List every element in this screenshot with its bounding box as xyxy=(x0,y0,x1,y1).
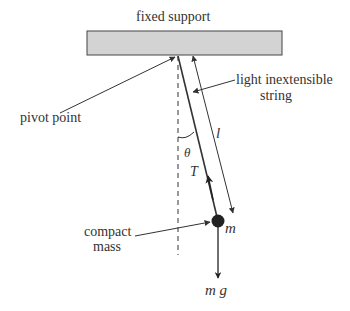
length-symbol: l xyxy=(216,126,220,141)
pendulum-diagram xyxy=(0,0,350,311)
mass-symbol: m xyxy=(225,221,236,236)
weight-symbol: m g xyxy=(205,283,227,298)
fixed-support xyxy=(87,31,282,55)
pivot-label: pivot point xyxy=(20,111,81,125)
mass-pointer xyxy=(135,222,210,236)
tension-symbol: T xyxy=(190,165,198,179)
angle-symbol: θ xyxy=(184,146,190,159)
length-arrow xyxy=(193,56,233,213)
support-label: fixed support xyxy=(136,10,210,24)
mass-label-line1: compact xyxy=(84,225,131,239)
angle-arc xyxy=(178,132,194,138)
tension-arrow xyxy=(208,176,213,200)
mass-label-line2: mass xyxy=(93,240,121,254)
pivot-pointer xyxy=(60,57,175,113)
string-label-line2: string xyxy=(260,89,292,103)
string-label-line1: light inextensible xyxy=(236,73,333,87)
compact-mass xyxy=(212,215,225,228)
